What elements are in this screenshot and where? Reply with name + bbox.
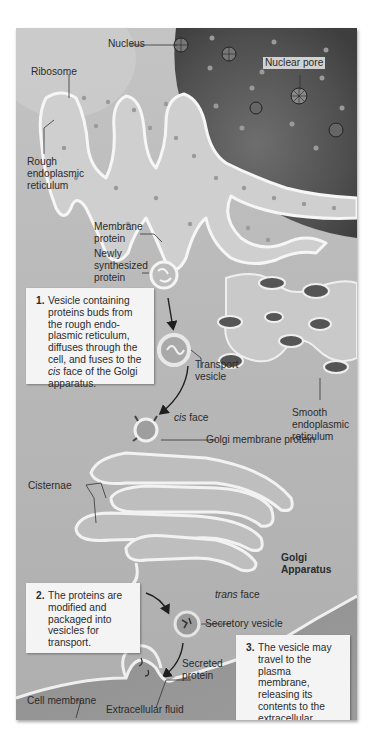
smooth-er-shape [218, 274, 357, 373]
budding-vesicle-shape [151, 262, 177, 288]
arrow-to-cell-membrane [164, 643, 183, 676]
label-cell-membrane: Cell membrane [27, 695, 96, 707]
callout-step-3: 3. The vesicle may travel to the plasma … [236, 635, 350, 720]
transport-vesicle-shape [159, 335, 189, 365]
arrow-to-secretory-vesicle [146, 593, 168, 612]
label-rough-er: Rough endoplasmic reticulum [27, 156, 84, 192]
arrow-to-transport-vesicle [168, 298, 173, 328]
label-cis-face: cis face [174, 412, 209, 424]
label-trans-face: trans face [215, 589, 260, 601]
label-golgi-membrane-protein: Golgi membrane protein [206, 434, 315, 446]
arrow-to-cis-face [161, 366, 188, 413]
callout-step-2: 2. The proteins are modified and package… [26, 583, 140, 653]
label-cisternae: Cisternae [28, 480, 72, 492]
golgi-cisternae-shape [76, 453, 292, 588]
label-nucleus: Nucleus [108, 38, 145, 50]
label-secreted-protein: Secreted protein [182, 658, 223, 682]
label-ribosome: Ribosome [31, 66, 77, 78]
label-transport-vesicle: Transport vesicle [195, 359, 238, 383]
label-membrane-protein: Membrane protein [94, 221, 143, 245]
callout-step-1: 1. Vesicle containing proteins buds from… [26, 288, 154, 384]
cis-vesicle-shape [133, 416, 157, 441]
label-golgi-apparatus: Golgi Apparatus [281, 552, 331, 576]
label-newly-synthesized-protein: Newly synthesized protein [94, 248, 148, 284]
diagram-panel: Nucleus Ribosome Nuclear pore Rough endo… [16, 28, 357, 720]
label-extracellular-fluid: Extracellular fluid [106, 704, 184, 716]
label-secretory-vesicle: Secretory vesicle [205, 618, 283, 630]
label-nuclear-pore: Nuclear pore [263, 57, 325, 69]
secretory-vesicle-shape [175, 612, 199, 636]
